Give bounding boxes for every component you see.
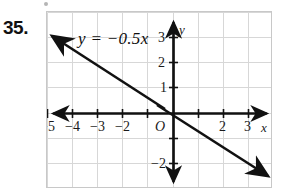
equation-annotation: y = −0.5x xyxy=(78,30,148,47)
y-axis-name: y xyxy=(179,23,185,36)
x-tick-label-2: 2 xyxy=(219,120,226,134)
x-tick-label--5: −5 xyxy=(46,120,55,134)
coordinate-graph-figure: 35. xyxy=(0,0,281,196)
y-tick-label-2: 2 xyxy=(158,56,165,70)
y-tick-label-3: 3 xyxy=(158,31,165,45)
x-tick-label--4: −4 xyxy=(65,120,80,134)
plot-area: y = −0.5x −5 −4 −3 −2 2 3 O 3 2 1 −2 y x xyxy=(46,11,272,188)
x-tick-label--2: −2 xyxy=(115,120,130,134)
y-tick-label-1: 1 xyxy=(160,81,167,95)
x-axis-name: x xyxy=(261,121,267,134)
origin-label: O xyxy=(155,120,165,134)
x-tick-label-3: 3 xyxy=(244,120,251,134)
y-tick-label--2: −2 xyxy=(151,157,166,171)
x-tick-label--3: −3 xyxy=(90,120,105,134)
problem-number: 35. xyxy=(3,17,28,39)
scan-artifact-speck xyxy=(44,2,48,6)
